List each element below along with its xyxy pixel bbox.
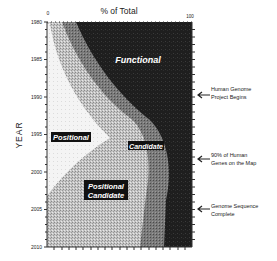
label-candidate-text: Candidate <box>129 143 163 150</box>
y-axis-labels: 1980 1985 1990 1995 2000 2005 2010 <box>31 19 42 250</box>
chart-figure: % of Total 0 100 1980 1985 1990 1995 200… <box>0 0 277 261</box>
label-positional: Positional <box>51 132 91 142</box>
y-label-1980: 1980 <box>31 19 42 25</box>
annotation-1-line1: Human Genome <box>211 86 251 92</box>
annotation-1-line2: Project Begins <box>211 94 247 100</box>
y-label-1995: 1995 <box>31 131 42 137</box>
x-axis-title: % of Total <box>100 6 137 16</box>
y-label-2000: 2000 <box>31 169 42 175</box>
annotation-3-line1: Genome Sequence <box>211 203 258 209</box>
label-positional-candidate-line2: Candidate <box>88 191 124 200</box>
y-label-2005: 2005 <box>31 206 42 212</box>
x-axis-min-label: 0 <box>47 10 50 16</box>
left-arrow-icon <box>198 206 210 212</box>
annotation-2-line2: Genes on the Map <box>211 160 256 166</box>
label-positional-candidate-line1: Positional <box>88 182 125 191</box>
x-axis-max-label: 100 <box>186 14 194 19</box>
annotation-project-begins: Human Genome Project Begins <box>198 86 251 100</box>
y-label-1985: 1985 <box>31 56 42 62</box>
left-arrow-icon <box>198 92 210 98</box>
y-label-2010: 2010 <box>31 244 42 250</box>
annotation-2-line1: 90% of Human <box>211 152 247 158</box>
label-functional: Functional <box>115 55 161 65</box>
annotation-sequence-complete: Genome Sequence Complete <box>198 203 258 217</box>
y-label-1990: 1990 <box>31 94 42 100</box>
left-arrow-icon <box>198 156 210 162</box>
label-positional-candidate: Positional Candidate <box>84 180 128 200</box>
annotation-genes-on-map: 90% of Human Genes on the Map <box>198 152 256 166</box>
annotation-3-line2: Complete <box>211 211 235 217</box>
y-axis-title: YEAR <box>14 121 24 148</box>
label-candidate: Candidate <box>128 141 164 150</box>
label-positional-text: Positional <box>53 133 90 142</box>
